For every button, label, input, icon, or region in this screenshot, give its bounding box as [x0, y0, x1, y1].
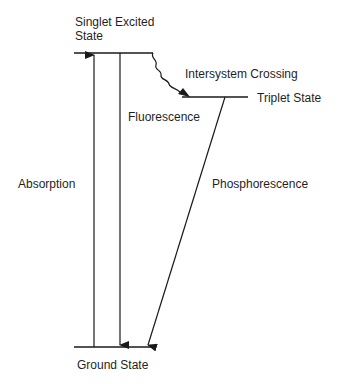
singlet-label-line2: State — [75, 29, 103, 43]
singlet-label: Singlet Excited — [75, 15, 154, 29]
triplet-label: Triplet State — [257, 91, 321, 105]
absorption-label: Absorption — [18, 177, 75, 191]
phosphorescence-label: Phosphorescence — [212, 177, 308, 191]
isc-label: Intersystem Crossing — [185, 67, 298, 81]
jablonski-diagram — [0, 0, 340, 384]
fluorescence-label: Fluorescence — [128, 110, 200, 124]
phosphorescence-arrow — [148, 97, 225, 345]
ground-label: Ground State — [77, 358, 148, 372]
isc-arrowhead-icon — [178, 88, 190, 97]
